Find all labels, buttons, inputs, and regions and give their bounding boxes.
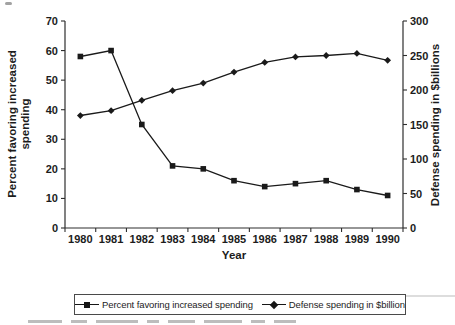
data-point-square — [354, 187, 360, 193]
x-axis-tick-label: 1990 — [375, 233, 399, 245]
right-axis-tick-label: 250 — [410, 50, 428, 62]
series-line-diamond — [80, 53, 387, 115]
legend-item-percent: Percent favoring increased spending — [75, 299, 253, 310]
data-point-diamond — [354, 50, 361, 57]
data-point-diamond — [138, 97, 145, 104]
right-axis-tick-label: 200 — [410, 84, 428, 96]
data-point-square — [231, 178, 237, 184]
data-point-diamond — [169, 87, 176, 94]
x-axis-tick-label: 1989 — [345, 233, 369, 245]
left-axis-tick-label: 70 — [46, 15, 58, 27]
x-axis-tick-label: 1982 — [130, 233, 154, 245]
right-axis-tick-label: 300 — [410, 15, 428, 27]
data-point-diamond — [108, 107, 115, 114]
x-axis-tick-label: 1988 — [314, 233, 338, 245]
left-axis-tick-label: 40 — [46, 104, 58, 116]
right-axis-tick-label: 50 — [410, 188, 422, 200]
x-axis-tick-label: 1981 — [99, 233, 123, 245]
x-axis-tick-label: 1983 — [160, 233, 184, 245]
figure-page: Percent favoring increased spending Defe… — [0, 0, 455, 325]
data-point-diamond — [77, 112, 84, 119]
data-point-diamond — [200, 80, 207, 87]
right-axis-tick-label: 0 — [410, 222, 416, 234]
left-axis-tick-label: 0 — [52, 222, 58, 234]
data-point-diamond — [231, 69, 238, 76]
data-point-square — [108, 48, 114, 54]
data-point-diamond — [292, 53, 299, 60]
diamond-marker-icon — [262, 300, 286, 310]
right-axis-tick-label: 150 — [410, 119, 428, 131]
x-axis-tick-label: 1984 — [191, 233, 216, 245]
square-marker-icon — [75, 300, 99, 310]
data-point-diamond — [384, 57, 391, 64]
legend-label-defense: Defense spending in $billion — [289, 299, 405, 310]
left-axis-title-line1: Percent favoring increased — [6, 50, 18, 198]
x-axis-tick-label: 1985 — [222, 233, 246, 245]
left-axis-tick-label: 50 — [46, 74, 58, 86]
x-axis-tick-label: 1980 — [68, 233, 92, 245]
data-point-diamond — [323, 52, 330, 59]
x-axis-tick-label: 1986 — [252, 233, 276, 245]
left-axis-tick-label: 10 — [46, 192, 58, 204]
legend-item-defense: Defense spending in $billion — [262, 299, 405, 310]
x-axis-tick-label: 1987 — [283, 233, 307, 245]
chart-svg: Percent favoring increased spending Defe… — [0, 0, 455, 292]
scan-speck — [5, 2, 12, 5]
x-axis-title: Year — [222, 249, 247, 261]
square-glyph — [84, 302, 90, 308]
chart-legend: Percent favoring increased spending Defe… — [74, 294, 406, 315]
data-point-square — [170, 163, 176, 169]
left-axis-tick-label: 60 — [46, 45, 58, 57]
right-axis-tick-label: 100 — [410, 153, 428, 165]
data-point-square — [323, 178, 329, 184]
legend-label-percent: Percent favoring increased spending — [102, 299, 253, 310]
cropped-caption-fragment — [28, 319, 338, 325]
right-axis-title: Defense spending in $billions — [429, 44, 441, 206]
data-point-square — [293, 181, 299, 187]
data-point-square — [200, 166, 206, 172]
data-point-square — [78, 54, 84, 60]
left-axis-title-line2: spending — [19, 98, 31, 149]
left-axis-tick-label: 30 — [46, 133, 58, 145]
data-point-diamond — [261, 59, 268, 66]
diamond-glyph — [270, 300, 278, 308]
data-point-square — [385, 193, 391, 199]
data-point-square — [262, 184, 268, 190]
data-point-square — [139, 122, 145, 128]
left-axis-tick-label: 20 — [46, 163, 58, 175]
